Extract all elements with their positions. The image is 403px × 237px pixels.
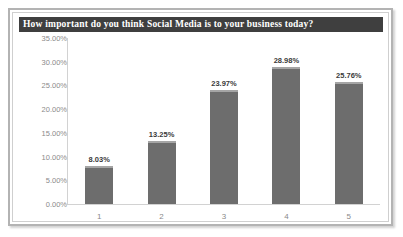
bar[interactable] (148, 141, 176, 204)
bar-group: 13.25% (130, 38, 192, 204)
bar[interactable] (85, 166, 113, 204)
x-axis-tick-label: 1 (68, 212, 130, 221)
x-axis-tick-label: 5 (318, 212, 380, 221)
bar[interactable] (210, 90, 238, 204)
x-axis-tick-label: 4 (255, 212, 317, 221)
bar-value-label: 25.76% (318, 71, 380, 80)
y-axis-tick-label: 35.00% (23, 34, 67, 43)
x-axis-line (67, 204, 380, 205)
bar-value-label: 23.97% (193, 79, 255, 88)
bar[interactable] (272, 67, 300, 204)
y-axis-tick-label: 0.00% (23, 200, 67, 209)
y-axis-tick-mark (64, 38, 67, 39)
y-axis-tick-label: 20.00% (23, 105, 67, 114)
plot-area: 8.03%13.25%23.97%28.98%25.76% (68, 38, 380, 204)
y-axis-tick-mark (64, 180, 67, 181)
bar-value-label: 28.98% (255, 56, 317, 65)
x-axis-tick-label: 3 (193, 212, 255, 221)
y-axis-tick-label: 15.00% (23, 129, 67, 138)
bar-group: 23.97% (193, 38, 255, 204)
chart-title: How important do you think Social Media … (19, 17, 383, 32)
chart-frame-inner: How important do you think Social Media … (12, 12, 389, 222)
x-axis-tick-label: 2 (130, 212, 192, 221)
bar-group: 28.98% (255, 38, 317, 204)
y-axis-tick-mark (64, 133, 67, 134)
y-axis-tick-mark (64, 62, 67, 63)
y-axis-tick-label: 30.00% (23, 58, 67, 67)
y-axis-tick-label: 10.00% (23, 153, 67, 162)
plot-region: 35.00%30.00%25.00%20.00%15.00%10.00%5.00… (19, 34, 385, 222)
y-axis-tick-label: 25.00% (23, 81, 67, 90)
chart-frame: How important do you think Social Media … (8, 8, 393, 226)
bar-group: 8.03% (68, 38, 130, 204)
y-axis-tick-mark (64, 157, 67, 158)
y-axis-tick-label: 5.00% (23, 176, 67, 185)
y-axis-tick-mark (64, 109, 67, 110)
y-axis-tick-mark (64, 85, 67, 86)
bar[interactable] (335, 82, 363, 204)
bar-value-label: 8.03% (68, 155, 130, 164)
y-axis-tick-mark (64, 204, 67, 205)
bar-group: 25.76% (318, 38, 380, 204)
bar-value-label: 13.25% (130, 130, 192, 139)
